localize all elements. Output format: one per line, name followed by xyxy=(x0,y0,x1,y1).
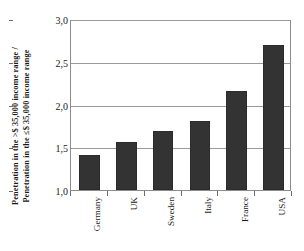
x-axis-tick-mark xyxy=(70,191,71,196)
bar-france[interactable] xyxy=(226,91,247,190)
plot-area xyxy=(70,20,291,191)
x-axis-label-sweden: Sweden xyxy=(155,197,169,249)
bar-slot xyxy=(116,21,137,190)
bar-italy[interactable] xyxy=(190,121,211,190)
x-axis-label-text: France xyxy=(240,197,250,222)
x-axis-tick-mark xyxy=(254,191,255,196)
bar-usa[interactable] xyxy=(263,45,284,190)
bar-uk[interactable] xyxy=(116,142,137,190)
y-axis-title-line-2: Penetration in the ≤$ 35,000 income rang… xyxy=(22,47,33,205)
bar-slot xyxy=(226,21,247,190)
y-axis-tick-mark xyxy=(9,148,13,149)
y-axis-tick-label: 1,5 xyxy=(42,143,68,154)
x-axis-tick-mark xyxy=(181,191,182,196)
bar-germany[interactable] xyxy=(79,155,100,190)
bar-slot xyxy=(190,21,211,190)
x-axis-tick-mark xyxy=(107,191,108,196)
y-axis-tick-label: 1,0 xyxy=(42,186,68,197)
x-axis-label-italy: Italy xyxy=(192,197,206,249)
bar-slot xyxy=(263,21,284,190)
y-axis-tick-mark xyxy=(9,106,13,107)
bar-chart-figure: Penetration in the >$ 35,000 income rang… xyxy=(0,0,304,251)
y-axis-tick-label: 2,0 xyxy=(42,100,68,111)
bar-series xyxy=(71,21,290,190)
y-axis-tick-label: 2,5 xyxy=(42,57,68,68)
x-axis-label-text: UK xyxy=(129,197,139,210)
y-axis-title: Penetration in the >$ 35,000 income rang… xyxy=(0,0,44,251)
bar-sweden[interactable] xyxy=(153,131,174,190)
x-axis-label-text: Sweden xyxy=(166,197,176,226)
y-axis-tick-mark xyxy=(9,63,13,64)
x-axis-label-text: Italy xyxy=(203,197,213,214)
bar-slot xyxy=(79,21,100,190)
x-axis-label-usa: USA xyxy=(266,197,280,249)
y-axis-tick-label: 3,0 xyxy=(42,15,68,26)
x-axis-label-france: France xyxy=(229,197,243,249)
x-axis-label-germany: Germany xyxy=(81,197,95,249)
y-axis-tick-mark xyxy=(9,20,13,21)
y-axis-tick-mark xyxy=(9,191,13,192)
x-axis-label-text: Germany xyxy=(92,197,102,231)
x-axis-tick-mark xyxy=(144,191,145,196)
x-axis-tick-mark xyxy=(291,191,292,196)
x-axis-label-uk: UK xyxy=(118,197,132,249)
x-axis-tick-mark xyxy=(217,191,218,196)
bar-slot xyxy=(153,21,174,190)
y-axis-title-line-1: Penetration in the >$ 35,000 income rang… xyxy=(11,47,22,205)
x-axis-label-text: USA xyxy=(277,197,287,215)
